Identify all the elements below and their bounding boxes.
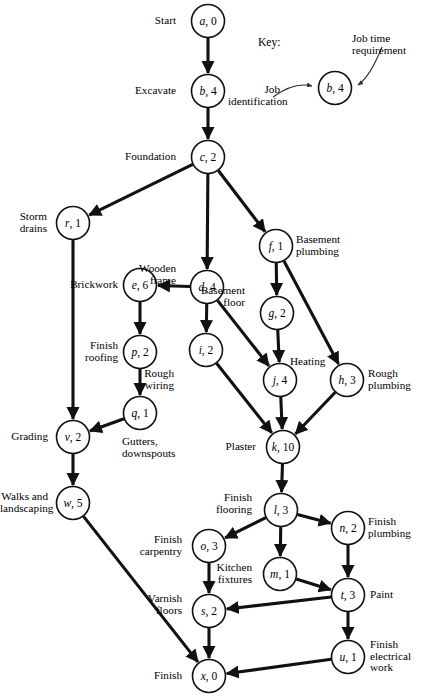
node-o-text: o, 3 (200, 539, 218, 552)
label-node-f: Basement plumbing (296, 234, 426, 257)
node-m-text: m, 1 (270, 567, 290, 580)
node-b[interactable]: b, 4 (192, 75, 225, 108)
node-n-text: n, 2 (339, 521, 357, 534)
label-node-g: Basement floor (0, 285, 245, 308)
node-g-text: g, 2 (268, 306, 286, 319)
node-h-text: h, 3 (338, 373, 356, 386)
label-node-i: Rough wiring (0, 368, 174, 391)
node-r-text: r, 1 (65, 216, 81, 229)
node-j[interactable]: j, 4 (264, 364, 297, 397)
edge-i-to-k (217, 363, 272, 433)
node-c[interactable]: c, 2 (192, 141, 225, 174)
label-node-a: Start (0, 15, 176, 27)
node-r[interactable]: r, 1 (57, 207, 90, 240)
edge-h-to-k (295, 392, 335, 434)
node-q-text: q, 1 (131, 406, 149, 419)
edge-t-to-s (227, 597, 331, 609)
node-a[interactable]: a, 0 (192, 5, 225, 38)
node-u[interactable]: u, 1 (332, 641, 365, 674)
edge-c-to-d (207, 174, 208, 269)
node-o[interactable]: o, 3 (193, 530, 226, 563)
edge-k-to-l (282, 464, 283, 492)
node-u-text: u, 1 (339, 650, 357, 663)
edge-g-to-j (278, 330, 279, 362)
node-l-text: l, 3 (274, 503, 289, 516)
node-j-text: j, 4 (271, 373, 288, 386)
node-f[interactable]: f, 1 (260, 230, 293, 263)
label-node-s: Varnish floors (0, 593, 182, 616)
key-job-identification-label: Job identification (228, 84, 280, 107)
edge-j-to-k (281, 397, 282, 429)
label-node-j: Heating (290, 356, 426, 368)
label-node-n: Finish plumbing (368, 516, 426, 539)
key-job-time-label: Job time requirement (352, 33, 424, 56)
node-i-text: i, 2 (199, 343, 214, 356)
label-node-h: Rough plumbing (368, 368, 426, 391)
node-x-text: x, 0 (200, 669, 218, 682)
key-sample-node[interactable]: b, 4 (319, 72, 352, 105)
label-node-r: Storm drains (0, 211, 47, 234)
key-title: Key: (258, 36, 281, 49)
node-l[interactable]: l, 3 (265, 494, 298, 527)
node-p-text: p, 2 (130, 345, 149, 358)
label-node-k: Plaster (0, 441, 256, 453)
key-sample-node-text: b, 4 (326, 81, 344, 94)
label-node-u: Finish electrical work (370, 639, 426, 674)
node-t[interactable]: t, 3 (332, 579, 365, 612)
node-n[interactable]: n, 2 (332, 512, 365, 545)
label-node-t: Paint (370, 589, 426, 601)
label-node-o: Finish carpentry (0, 534, 182, 557)
label-node-p: Finish roofing (0, 340, 118, 363)
node-p[interactable]: p, 2 (124, 336, 157, 369)
edge-c-to-f (218, 171, 265, 232)
label-node-l: Finish flooring (0, 492, 252, 515)
label-node-b: Excavate (0, 85, 176, 97)
label-node-m: Kitchen fixtures (0, 562, 252, 585)
node-x[interactable]: x, 0 (193, 660, 226, 693)
node-b-text: b, 4 (199, 84, 217, 97)
node-t-text: t, 3 (341, 588, 356, 601)
node-a-text: a, 0 (199, 14, 217, 27)
node-s-text: s, 2 (201, 604, 217, 617)
node-h[interactable]: h, 3 (331, 364, 364, 397)
edge-u-to-x (227, 659, 331, 673)
label-node-c: Foundation (0, 151, 176, 163)
node-g[interactable]: g, 2 (261, 297, 294, 330)
node-c-text: c, 2 (200, 150, 217, 163)
edge-l-to-n (297, 514, 330, 523)
node-q[interactable]: q, 1 (124, 397, 157, 430)
edge-l-to-o (225, 518, 266, 538)
edge-m-to-t (296, 579, 331, 590)
project-network-diagram: a, 0b, 4c, 2r, 1d, 4f, 1e, 6g, 2p, 2i, 2… (0, 0, 426, 698)
node-i[interactable]: i, 2 (190, 334, 223, 367)
edge-c-to-r (89, 164, 193, 215)
label-node-x: Finish (0, 670, 182, 682)
edge-q-to-v (90, 419, 124, 431)
node-s[interactable]: s, 2 (193, 595, 226, 628)
node-m[interactable]: m, 1 (264, 558, 297, 591)
node-f-text: f, 1 (269, 239, 284, 252)
